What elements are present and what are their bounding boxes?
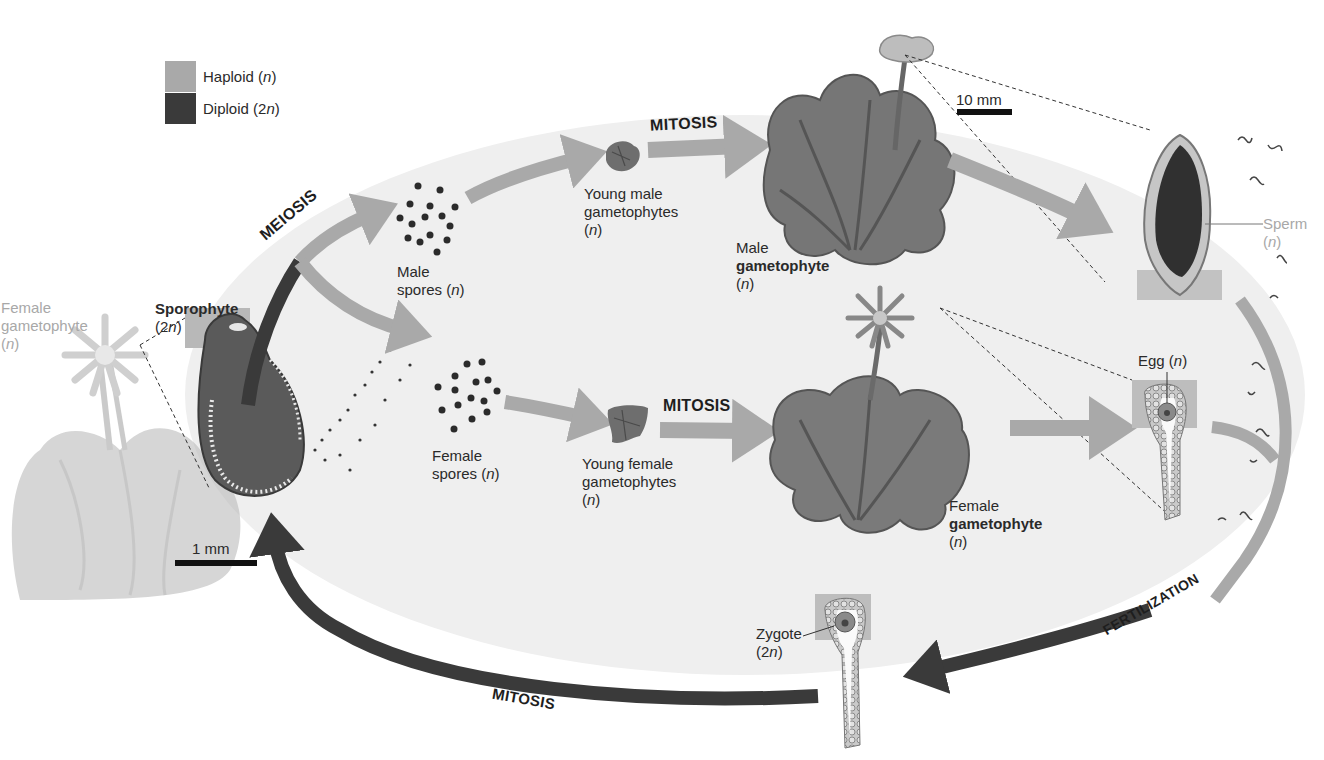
scale-label-1mm: 1 mm — [192, 540, 230, 557]
diploid-swatch — [165, 93, 196, 124]
label-male-spores: Male spores (n) — [397, 263, 465, 299]
male-gametophyte-illustration — [764, 35, 955, 264]
legend-item-diploid: Diploid (2n) — [165, 92, 280, 124]
label-mitosis-male: MITOSIS — [650, 113, 718, 135]
label-sporophyte: Sporophyte (2n) — [155, 300, 238, 336]
life-cycle-diagram: Haploid (n) Diploid (2n) MEIOSIS MITOSIS… — [0, 0, 1324, 760]
label-male-gametophyte: Male gametophyte (n) — [736, 239, 829, 293]
scale-label-10mm: 10 mm — [956, 91, 1002, 108]
label-mitosis-female: MITOSIS — [663, 397, 731, 415]
label-female-spores: Female spores (n) — [432, 447, 500, 483]
scale-bar-1mm-graphic — [175, 560, 257, 566]
arrow-mitosis-female — [660, 430, 748, 431]
label-female-gametophyte: Female gametophyte (n) — [949, 497, 1042, 551]
label-female-gametophyte-inset: Female gametophyte (n) — [1, 299, 88, 353]
antheridium-illustration — [1137, 135, 1222, 300]
haploid-swatch — [165, 61, 196, 92]
legend-label-diploid: Diploid (2n) — [203, 100, 280, 117]
label-young-female-gametophytes: Young female gametophytes (n) — [582, 455, 676, 509]
arrow-mitosis-male — [648, 146, 740, 150]
sperm-leader-line — [1205, 222, 1263, 226]
legend-item-haploid: Haploid (n) — [165, 60, 280, 92]
scale-bar-10mm-graphic — [957, 109, 1012, 115]
label-zygote: Zygote (2n) — [756, 625, 802, 661]
legend-label-haploid: Haploid (n) — [203, 68, 276, 85]
label-egg: Egg (n) — [1138, 352, 1187, 370]
label-young-male-gametophytes: Young male gametophytes (n) — [584, 185, 678, 239]
legend: Haploid (n) Diploid (2n) — [165, 60, 280, 124]
label-sperm: Sperm (n) — [1263, 215, 1307, 251]
